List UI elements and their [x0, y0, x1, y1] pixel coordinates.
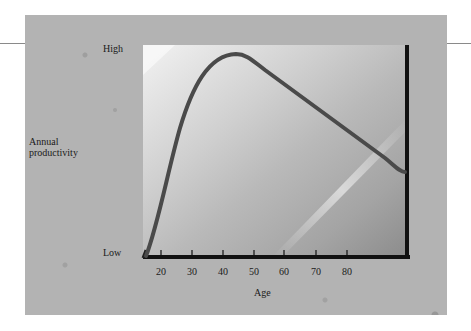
- right-axis-line: [405, 45, 409, 259]
- x-axis-title: Age: [254, 287, 271, 298]
- y-axis-title-line1: Annual: [29, 136, 58, 147]
- x-tick-label: 50: [249, 266, 259, 277]
- y-axis-title-line2: productivity: [29, 147, 78, 158]
- y-low-label: Low: [103, 247, 121, 258]
- x-tick-label: 70: [311, 266, 321, 277]
- x-tick-label: 20: [156, 266, 166, 277]
- x-tick-label: 40: [218, 266, 228, 277]
- chart-plot: [0, 0, 471, 331]
- x-tick-label: 60: [279, 266, 289, 277]
- x-tick-label: 30: [187, 266, 197, 277]
- x-tick-label: 80: [342, 266, 352, 277]
- x-axis-line: [143, 255, 410, 259]
- y-high-label: High: [103, 43, 123, 54]
